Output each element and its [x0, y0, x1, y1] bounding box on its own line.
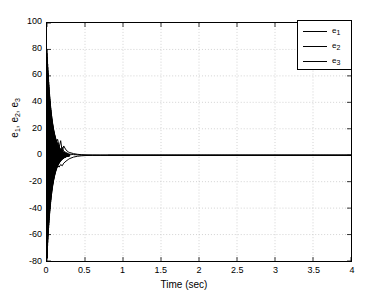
y-tick-label: 100 — [2, 17, 42, 26]
series-line-1 — [47, 49, 351, 258]
y-tick-label: -20 — [2, 177, 42, 186]
x-tick-label: 1 — [103, 266, 143, 275]
y-tick-label: -80 — [2, 257, 42, 266]
x-tick-label: 3.5 — [294, 266, 334, 275]
x-tick-label: 2 — [179, 266, 219, 275]
x-tick-label: 1.5 — [141, 266, 181, 275]
x-tick-label: 2.5 — [217, 266, 257, 275]
legend-label: e3 — [332, 56, 340, 66]
y-tick-label: 20 — [2, 124, 42, 133]
series-line-3 — [47, 83, 351, 222]
series-line-2 — [47, 68, 351, 248]
y-tick-label: -60 — [2, 230, 42, 239]
legend-item-1[interactable]: e1 — [298, 24, 351, 40]
legend-label: e2 — [332, 41, 340, 51]
y-tick-label: 40 — [2, 97, 42, 106]
x-tick-label: 0 — [26, 266, 66, 275]
x-tick-label: 3 — [256, 266, 296, 275]
x-axis-label: Time (sec) — [0, 279, 368, 290]
x-tick-label: 4 — [332, 266, 368, 275]
y-tick-label: 60 — [2, 70, 42, 79]
y-tick-label: 0 — [2, 150, 42, 159]
y-tick-label: 80 — [2, 44, 42, 53]
y-axis-label: e1, e2, e3 — [9, 73, 21, 163]
y-tick-label: -40 — [2, 204, 42, 213]
x-tick-label: 0.5 — [64, 266, 104, 275]
y-axis-label-text: e1, e2, e3 — [9, 98, 20, 138]
legend-item-3[interactable]: e3 — [298, 54, 351, 70]
legend-item-2[interactable]: e2 — [298, 39, 351, 55]
legend-line-sample — [303, 46, 327, 47]
legend-line-sample — [303, 31, 327, 32]
figure-canvas: -80-60-40-20020406080100 00.511.522.533.… — [0, 0, 368, 300]
legend-box: e1e2e3 — [297, 20, 352, 70]
legend-line-sample — [303, 61, 327, 62]
legend-label: e1 — [332, 26, 340, 36]
